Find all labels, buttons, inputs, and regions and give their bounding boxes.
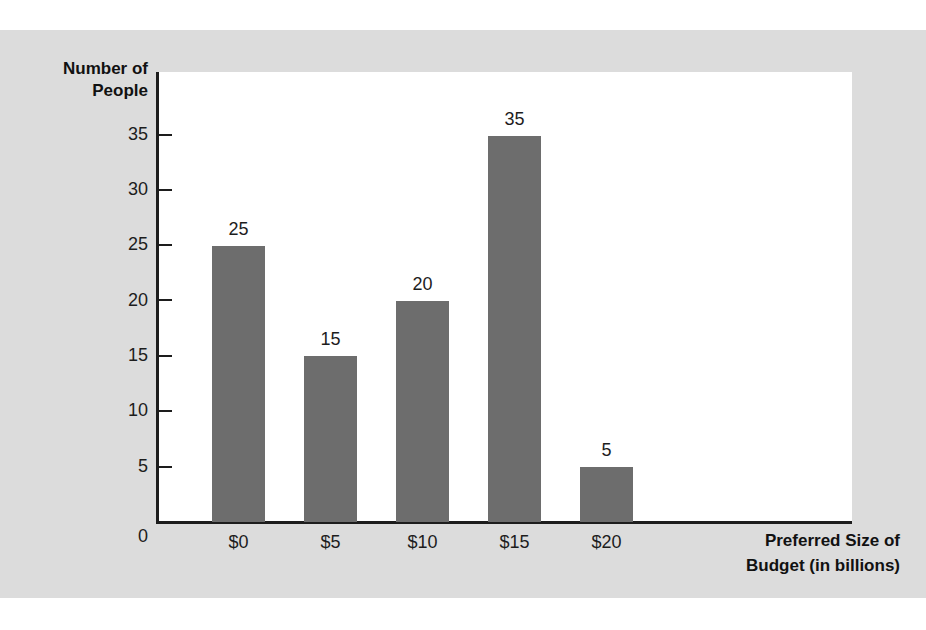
bar-value-label: 5 xyxy=(576,440,637,461)
y-tick-label: 10 xyxy=(104,400,148,421)
bar xyxy=(396,301,449,522)
y-tick-label: 0 xyxy=(104,526,148,547)
x-axis-title-line-1: Preferred Size of xyxy=(620,528,900,553)
y-axis-tick-labels: 35 30 25 20 15 10 5 0 xyxy=(64,0,148,630)
bar xyxy=(488,136,541,522)
y-tick-mark xyxy=(159,134,172,136)
y-tick-label: 20 xyxy=(104,290,148,311)
y-tick-mark xyxy=(159,410,172,412)
y-tick-mark xyxy=(159,189,172,191)
bar-value-label: 25 xyxy=(208,219,269,240)
y-tick-label: 30 xyxy=(104,179,148,200)
x-axis-title-line-2: Budget (in billions) xyxy=(620,553,900,578)
bar-value-label: 20 xyxy=(392,274,453,295)
bar xyxy=(580,467,633,522)
y-axis-line xyxy=(156,72,159,524)
y-tick-label: 5 xyxy=(104,456,148,477)
y-tick-label: 35 xyxy=(104,124,148,145)
y-tick-mark xyxy=(159,355,172,357)
y-tick-label: 15 xyxy=(104,345,148,366)
y-tick-mark xyxy=(159,244,172,246)
bar-value-label: 35 xyxy=(484,109,545,130)
x-tick-label: $0 xyxy=(206,532,271,553)
bar-value-label: 15 xyxy=(300,329,361,350)
y-tick-mark xyxy=(159,299,172,301)
x-tick-label: $15 xyxy=(482,532,547,553)
x-tick-label: $10 xyxy=(390,532,455,553)
y-tick-label: 25 xyxy=(104,234,148,255)
y-tick-mark xyxy=(159,466,172,468)
x-axis-title: Preferred Size of Budget (in billions) xyxy=(620,528,900,578)
bar xyxy=(304,356,357,522)
bar-chart-figure: Number of People 35 30 25 20 15 10 5 0 2… xyxy=(0,0,926,630)
bar xyxy=(212,246,265,522)
x-tick-label: $5 xyxy=(298,532,363,553)
